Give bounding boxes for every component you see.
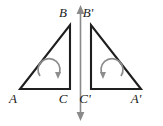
vertex-label-b: B — [59, 5, 67, 20]
rotation-arc-left-arrowhead-icon — [55, 72, 61, 79]
mirror-arrow-bottom-icon — [77, 112, 85, 121]
vertex-label-b-prime: B' — [83, 5, 94, 20]
vertex-label-a: A — [8, 91, 17, 106]
vertex-label-c-prime: C' — [79, 91, 91, 106]
triangle-abc — [20, 25, 70, 89]
reflection-diagram: B A C B' C' A' — [0, 0, 163, 126]
triangle-a-prime-b-prime-c-prime — [91, 25, 141, 89]
vertex-label-a-prime: A' — [130, 91, 142, 106]
rotation-arc-right-arrowhead-icon — [100, 72, 106, 79]
vertex-label-c: C — [59, 91, 68, 106]
geometry-figure: B A C B' C' A' — [0, 0, 163, 126]
triangle-abc-outline — [20, 25, 70, 89]
triangle-a-prime-b-prime-c-prime-outline — [91, 25, 141, 89]
